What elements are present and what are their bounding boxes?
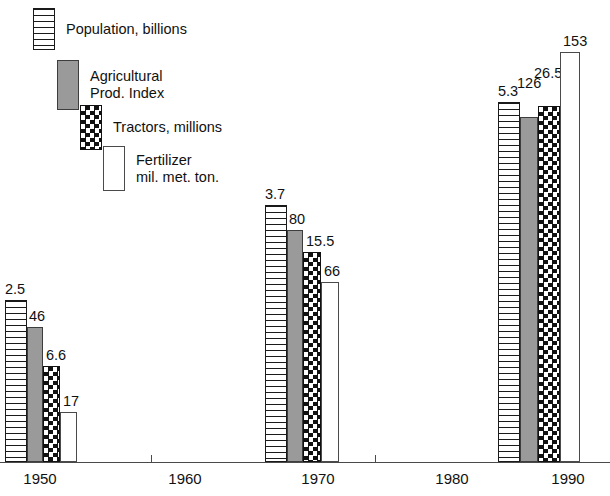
bar-value-fertilizer-1990: 153 (563, 33, 587, 49)
bar-population-1950[interactable] (5, 300, 27, 462)
legend-label-fertilizer: Fertilizer mil. met. ton. (136, 152, 219, 186)
bar-value-population-1950: 2.5 (5, 281, 25, 297)
bar-group-1990: 5.3 126 26.5 153 (498, 42, 588, 462)
bar-fertilizer-1950[interactable] (60, 412, 77, 462)
x-axis-tick-1960 (151, 455, 152, 463)
bar-value-tractors-1990: 26.5 (534, 65, 562, 81)
bar-value-tractors-1970: 15.5 (306, 233, 334, 249)
legend-item-fertilizer: Fertilizer mil. met. ton. (103, 146, 219, 191)
bar-value-tractors-1950: 6.6 (46, 347, 66, 363)
x-axis-tick-1980 (375, 455, 376, 463)
bar-tractors-1950[interactable] (43, 366, 60, 462)
bar-value-population-1990: 5.3 (498, 83, 518, 99)
legend-label-tractors: Tractors, millions (113, 119, 222, 136)
bar-population-1970[interactable] (265, 205, 287, 462)
bar-agricultural-1970[interactable] (287, 230, 303, 462)
legend-label-agricultural: Agricultural Prod. Index (90, 68, 164, 102)
legend-label-population: Population, billions (66, 21, 187, 38)
bar-agricultural-1950[interactable] (27, 327, 43, 462)
bar-tractors-1970[interactable] (303, 252, 321, 462)
bar-group-1970: 3.7 80 15.5 66 (265, 82, 350, 462)
bar-group-1950: 2.5 46 6.6 17 (5, 82, 85, 462)
bar-agricultural-1990[interactable] (520, 117, 538, 462)
x-axis-label-1980: 1980 (435, 470, 468, 487)
bar-fertilizer-1990[interactable] (560, 52, 580, 462)
bar-value-fertilizer-1950: 17 (63, 393, 79, 409)
legend-item-tractors: Tractors, millions (80, 105, 222, 150)
bar-value-fertilizer-1970: 66 (324, 263, 340, 279)
legend-swatch-fertilizer-icon (103, 146, 125, 191)
bar-value-agricultural-1970: 80 (289, 211, 305, 227)
x-axis-label-1990: 1990 (551, 470, 584, 487)
bar-value-agricultural-1950: 46 (29, 308, 45, 324)
x-axis-line (0, 462, 610, 463)
chart-canvas: Population, billions Agricultural Prod. … (0, 0, 610, 496)
x-axis-label-1950: 1950 (23, 470, 56, 487)
bar-tractors-1990[interactable] (538, 106, 560, 462)
x-axis-label-1970: 1970 (301, 470, 334, 487)
legend-swatch-population-icon (33, 8, 55, 50)
x-axis-label-1960: 1960 (168, 470, 201, 487)
bar-fertilizer-1970[interactable] (321, 282, 339, 462)
bar-population-1990[interactable] (498, 102, 520, 462)
legend-item-population: Population, billions (33, 8, 187, 50)
bar-value-population-1970: 3.7 (265, 186, 285, 202)
